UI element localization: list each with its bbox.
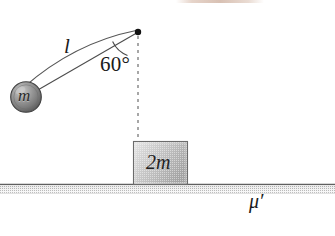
friction-coefficient-label: μ′ (249, 191, 263, 211)
string-length-label: l (64, 36, 70, 57)
bob-mass-label: m (18, 87, 30, 104)
physics-diagram-figure: l 60° m 2m μ′ (0, 0, 335, 236)
block-mass-label: 2m (146, 152, 170, 172)
angle-label: 60° (100, 54, 130, 75)
pivot-point (135, 29, 141, 35)
ground-surface (0, 184, 335, 194)
diagram-canvas (0, 0, 335, 236)
